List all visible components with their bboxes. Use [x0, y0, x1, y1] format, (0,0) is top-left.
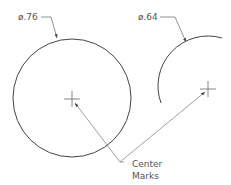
leader-line-2 — [160, 17, 186, 42]
callout-label-line1: Center — [132, 159, 163, 169]
callout-leader-1 — [75, 103, 124, 162]
callout-leader-2 — [120, 92, 205, 162]
dimension-label-1: ø.76 — [18, 12, 38, 22]
center-mark-cross-1 — [64, 91, 80, 107]
drawing-canvas: ø.76 ø.64 Center Marks — [0, 0, 231, 185]
callout-label-line2: Marks — [132, 171, 159, 181]
leader-line-1 — [41, 17, 57, 38]
arc — [158, 36, 222, 103]
dimension-label-2: ø.64 — [138, 12, 158, 22]
